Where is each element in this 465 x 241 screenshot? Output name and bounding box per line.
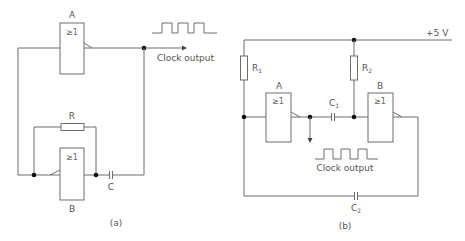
node-b-input — [32, 173, 37, 178]
c2-label: C2 — [351, 203, 361, 214]
resistor-r — [61, 124, 84, 131]
feedback-wire-a — [18, 48, 60, 175]
resistor-r-label: R — [69, 111, 75, 121]
node-b-output — [94, 173, 99, 178]
resistor-r1 — [241, 56, 248, 80]
gate-a-label: A — [69, 10, 76, 20]
gate-a-symbol-b: ≥1 — [272, 97, 284, 106]
r1-label: R1 — [252, 63, 262, 74]
gate-a-inversion-mark-b — [291, 112, 300, 117]
node-r2-gate-b — [352, 115, 357, 120]
capacitor-c — [110, 171, 113, 179]
clock-output-arrow-icon — [182, 46, 187, 51]
capacitor-c-wire — [113, 48, 144, 175]
gate-b-symbol-b: ≥1 — [374, 97, 386, 106]
c1-label: C1 — [329, 98, 339, 109]
clock-output-label-a: Clock output — [157, 53, 214, 63]
gate-b-input-mark — [50, 170, 60, 175]
square-wave-icon-a — [152, 23, 217, 33]
caption-a: (a) — [110, 218, 123, 228]
gate-b-label: B — [69, 204, 75, 214]
r2-label: R2 — [362, 63, 372, 74]
resistor-r-right-wire — [84, 127, 96, 175]
gate-a-symbol: ≥1 — [66, 28, 78, 37]
gate-b-symbol: ≥1 — [66, 153, 78, 162]
gate-a-inversion-mark — [84, 43, 92, 48]
capacitor-c-label: C — [108, 182, 114, 192]
gate-b-label-b: B — [377, 81, 383, 91]
caption-b: (b) — [339, 221, 352, 231]
supply-label: +5 V — [426, 28, 449, 38]
capacitor-c1 — [332, 113, 335, 121]
circuit-b: +5 V R1 R2 A ≥1 C1 B ≥1 — [241, 28, 453, 231]
clock-output-label-b: Clock output — [317, 163, 374, 173]
resistor-r-left-wire — [34, 127, 61, 175]
square-wave-icon-b — [315, 149, 378, 159]
resistor-r2 — [351, 56, 358, 80]
circuit-a: A ≥1 Clock output ≥1 B R C (a) — [18, 10, 217, 228]
clock-output-arrow-icon-b — [308, 138, 313, 143]
astable-multivibrator-diagrams: A ≥1 Clock output ≥1 B R C (a) — [0, 0, 465, 241]
gate-a-label-b: A — [276, 81, 283, 91]
capacitor-c2 — [355, 192, 358, 200]
gate-b-inversion-mark-b — [393, 112, 402, 117]
node-r1-gate-a — [242, 115, 247, 120]
